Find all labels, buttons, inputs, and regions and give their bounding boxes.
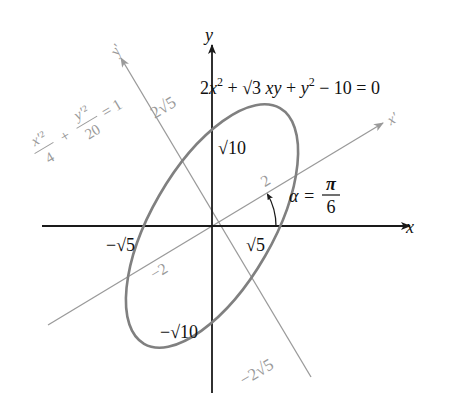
diagram-svg: x y x′ y′ 2x2 + √3 xy + y2 − 10 = 0 x′² … — [0, 0, 451, 414]
rotated-eq-plus: + — [57, 126, 73, 145]
xprime-intercept-pos: 2 — [257, 171, 273, 190]
angle-label: α = π 6 — [289, 174, 340, 217]
rotated-eq-den2: 20 — [82, 121, 103, 142]
angle-den: 6 — [327, 197, 336, 217]
y-intercept-pos: √10 — [218, 138, 246, 158]
yprime-axis-label: y′ — [106, 41, 126, 60]
x-axis-label: x — [405, 217, 414, 237]
yprime-intercept-neg: −2√5 — [236, 355, 277, 390]
rotated-ellipse-diagram: x y x′ y′ 2x2 + √3 xy + y2 − 10 = 0 x′² … — [0, 0, 451, 414]
original-equation: 2x2 + √3 xy + y2 − 10 = 0 — [200, 75, 380, 98]
y-intercept-neg: −√10 — [160, 322, 198, 342]
x-intercept-pos: √5 — [246, 235, 265, 255]
rotated-eq-den1: 4 — [42, 148, 57, 166]
xprime-axis — [48, 123, 383, 325]
angle-num: π — [326, 174, 337, 194]
rotated-equation: x′² 4 + y′² 20 = 1 — [25, 86, 130, 170]
rotated-eq-rhs: = 1 — [98, 95, 125, 120]
xprime-axis-label: x′ — [383, 109, 401, 129]
yprime-intercept-pos: 2√5 — [147, 92, 179, 122]
angle-lhs: α = — [289, 186, 315, 206]
angle-arc — [267, 194, 276, 226]
x-intercept-neg: −√5 — [106, 235, 135, 255]
y-axis-label: y — [203, 25, 213, 45]
